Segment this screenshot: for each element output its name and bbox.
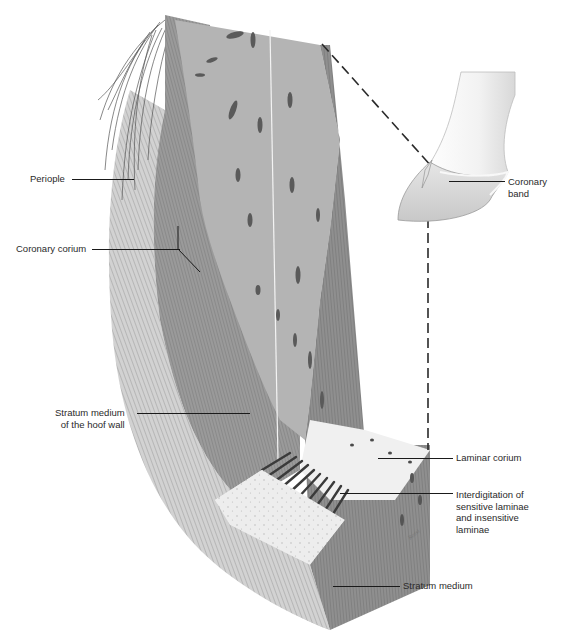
leader-laminar-corium bbox=[378, 458, 453, 459]
label-line-3: and insensitive bbox=[456, 512, 529, 524]
label-coronary-corium: Coronary corium bbox=[16, 243, 86, 255]
label-stratum-medium-hoof-wall: Stratum medium of the hoof wall bbox=[55, 407, 125, 430]
label-line-1: Coronary bbox=[508, 176, 547, 188]
hoof-wall-illustration: Rossi bbox=[0, 0, 562, 641]
leader-coronary-band bbox=[449, 181, 505, 182]
label-interdigitation: Interdigitation of sensitive laminae and… bbox=[456, 489, 529, 535]
label-laminar-corium: Laminar corium bbox=[456, 452, 521, 464]
label-coronary-band: Coronary band bbox=[508, 176, 547, 199]
leader-stratum-medium-hoof-wall bbox=[137, 413, 250, 414]
label-line-1: Stratum medium bbox=[55, 407, 125, 419]
leader-stratum-medium bbox=[333, 586, 400, 587]
inset-hoof bbox=[398, 72, 515, 221]
leader-interdigitation bbox=[340, 493, 453, 494]
label-line-4: laminae bbox=[456, 524, 529, 536]
label-periople: Periople bbox=[30, 173, 65, 185]
label-line-2: of the hoof wall bbox=[55, 419, 125, 431]
leader-coronary-corium-branch bbox=[170, 220, 210, 280]
leader-coronary-corium bbox=[92, 249, 180, 250]
label-stratum-medium: Stratum medium bbox=[403, 580, 473, 592]
label-line-2: sensitive laminae bbox=[456, 501, 529, 513]
label-line-1: Interdigitation of bbox=[456, 489, 529, 501]
label-line-2: band bbox=[508, 188, 547, 200]
leader-periople bbox=[72, 179, 134, 180]
